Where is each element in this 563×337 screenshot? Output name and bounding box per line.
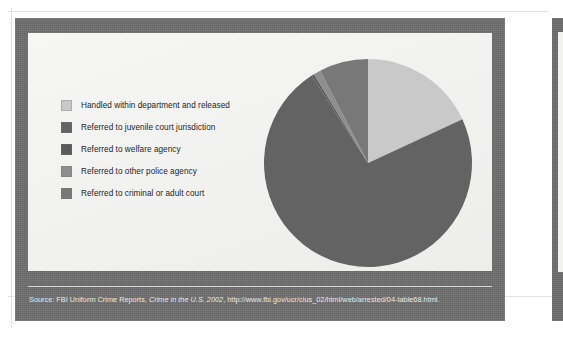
legend-item-handled-within-department: Handled within department and released [61,96,279,115]
pie-slice-group [264,59,472,267]
legend-item-criminal-adult-court: Referred to criminal or adult court [61,184,279,203]
source-divider [28,286,492,287]
legend-item-other-police-agency: Referred to other police agency [61,162,279,181]
legend-item-welfare-agency: Referred to welfare agency [61,140,279,159]
figure-frame: Handled within department and released R… [15,18,505,321]
scanned-page-background: Handled within department and released R… [0,0,563,337]
legend-swatch-icon-criminal-adult-court [61,188,72,199]
adjacent-figure-partial [552,18,563,321]
chart-panel: Handled within department and released R… [28,33,492,271]
page-edge-line-left [11,8,12,328]
legend-label-handled-within-department: Handled within department and released [81,101,230,111]
source-url: , http://www.fbi.gov/ucr/cius_02/html/we… [223,295,439,304]
chart-legend: Handled within department and released R… [61,96,279,206]
legend-swatch-icon-juvenile-court [61,122,72,133]
legend-label-other-police-agency: Referred to other police agency [81,167,197,177]
adjacent-figure-partial-panel [558,32,563,272]
legend-label-welfare-agency: Referred to welfare agency [81,145,181,155]
page-edge-line-top [8,11,548,12]
source-prefix: Source: FBI Uniform Crime Reports, [29,295,149,304]
legend-swatch-icon-other-police-agency [61,166,72,177]
legend-label-criminal-adult-court: Referred to criminal or adult court [81,189,204,199]
legend-label-juvenile-court: Referred to juvenile court jurisdiction [81,123,215,133]
legend-swatch-icon-welfare-agency [61,144,72,155]
source-publication-title: Crime in the U.S. 2002 [149,295,223,304]
legend-swatch-icon-handled-within-department [61,100,72,111]
pie-chart-svg [260,55,476,271]
source-caption: Source: FBI Uniform Crime Reports, Crime… [29,294,499,305]
pie-chart [260,55,476,271]
legend-item-juvenile-court: Referred to juvenile court jurisdiction [61,118,279,137]
